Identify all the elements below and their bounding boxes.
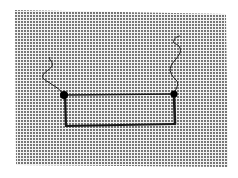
thermocouple-diagram: [0, 0, 238, 178]
right-junction-icon: [170, 90, 177, 97]
right-wire: [174, 94, 175, 124]
left-wire: [65, 95, 66, 126]
left-junction-icon: [60, 91, 68, 99]
top-wire: [64, 94, 174, 95]
halftone-background: [15, 10, 228, 167]
diagram-canvas: [0, 0, 238, 178]
